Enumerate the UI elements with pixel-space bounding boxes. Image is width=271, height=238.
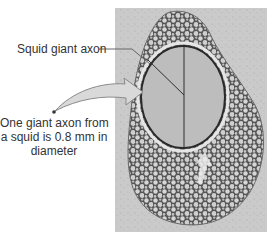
- axon-label: Squid giant axon: [17, 42, 106, 56]
- caption-line-3: diameter: [0, 144, 108, 158]
- callout-dot: [52, 110, 56, 114]
- caption-line-1: One giant axon from: [0, 116, 108, 130]
- axon-caption: One giant axon from a squid is 0.8 mm in…: [0, 116, 108, 158]
- squid-axon-figure: Squid giant axon One giant axon from a s…: [0, 0, 271, 238]
- caption-line-2: a squid is 0.8 mm in: [0, 130, 108, 144]
- giant-axon: [141, 46, 225, 148]
